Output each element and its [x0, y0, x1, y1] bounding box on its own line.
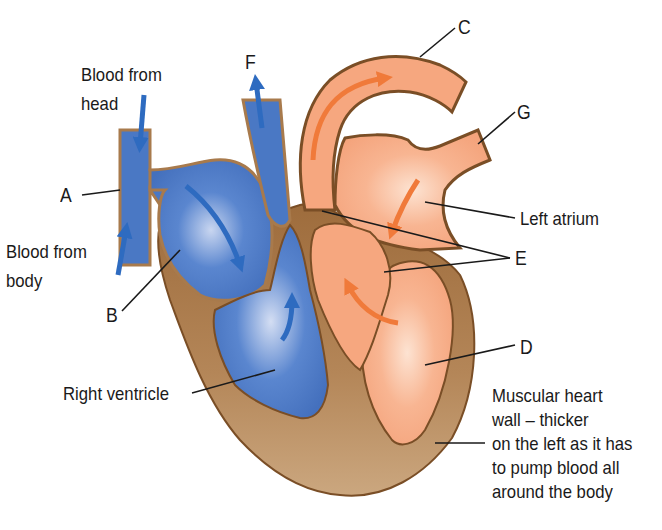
label-blood-from-head-2: head [81, 93, 118, 115]
label-a: A [60, 184, 72, 206]
label-e: E [515, 247, 527, 269]
leader-a [82, 190, 120, 195]
label-g: G [517, 101, 531, 123]
label-blood-from-body-1: Blood from [6, 241, 87, 263]
leader-c [420, 28, 455, 57]
label-d: D [520, 336, 533, 358]
muscular-wall-line-3: on the left as it has [492, 432, 632, 456]
muscular-wall-line-1: Muscular heart [492, 384, 632, 408]
label-f: F [245, 51, 256, 73]
label-muscular-heart-wall: Muscular heart wall – thicker on the lef… [492, 384, 632, 504]
label-right-ventricle: Right ventricle [63, 383, 169, 405]
label-blood-from-body-2: body [6, 270, 42, 292]
label-b: B [106, 304, 118, 326]
label-blood-from-head-1: Blood from [81, 64, 162, 86]
muscular-wall-line-2: wall – thicker [492, 408, 632, 432]
leader-g [478, 112, 515, 144]
muscular-wall-line-5: around the body [492, 480, 632, 504]
label-left-atrium: Left atrium [520, 208, 599, 230]
label-c: C [458, 16, 471, 38]
muscular-wall-line-4: to pump blood all [492, 456, 632, 480]
